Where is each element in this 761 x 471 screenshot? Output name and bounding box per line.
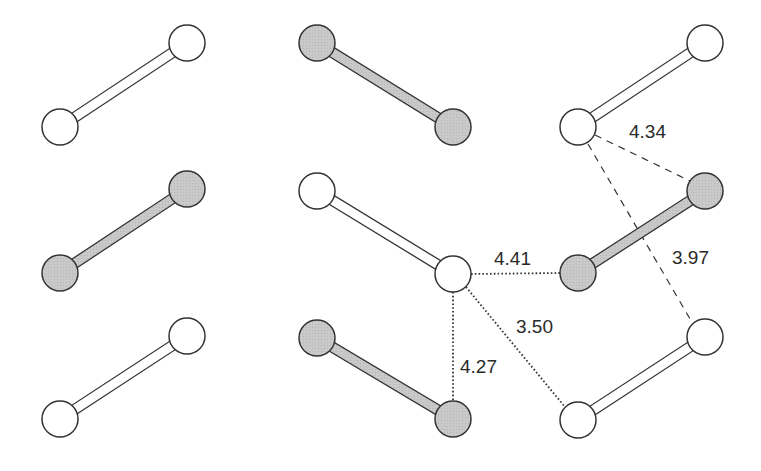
distance-label: 3.97 xyxy=(672,247,709,268)
bond xyxy=(314,39,455,132)
open-atom xyxy=(169,25,205,61)
distance-label: 3.50 xyxy=(516,316,553,337)
shaded-atom xyxy=(42,255,78,291)
packing-diagram: 4.414.273.504.343.97 xyxy=(0,0,761,471)
shaded-atom xyxy=(687,173,723,209)
bond xyxy=(575,333,707,424)
molecule-m9 xyxy=(560,319,723,438)
shaded-atom xyxy=(299,25,335,61)
shaded-atom xyxy=(299,320,335,356)
bond xyxy=(57,185,190,277)
distance-label: 4.34 xyxy=(629,121,666,142)
molecule-m1 xyxy=(42,25,205,145)
molecule-m3 xyxy=(42,318,205,437)
open-atom xyxy=(687,25,723,61)
labels-layer: 4.414.273.504.343.97 xyxy=(460,121,709,377)
molecule-m4 xyxy=(299,25,471,145)
open-atom xyxy=(299,173,335,209)
molecule-m8 xyxy=(560,173,723,291)
shaded-atom xyxy=(169,171,205,207)
open-atom xyxy=(42,109,78,145)
molecule-m2 xyxy=(42,171,205,291)
open-atom xyxy=(435,256,471,292)
bond xyxy=(314,187,455,279)
open-atom xyxy=(560,109,596,145)
contact-line-4-41 xyxy=(471,273,560,274)
molecule-m5 xyxy=(299,173,471,292)
bond xyxy=(314,334,455,424)
bond xyxy=(57,332,189,423)
shaded-atom xyxy=(435,401,471,437)
distance-label: 4.27 xyxy=(460,356,497,377)
shaded-atom xyxy=(435,109,471,145)
open-atom xyxy=(687,319,723,355)
distance-label: 4.41 xyxy=(494,248,531,269)
bond xyxy=(575,39,708,131)
bond xyxy=(57,39,190,131)
contact-line-3-50 xyxy=(466,287,565,407)
open-atom xyxy=(42,401,78,437)
molecule-m6 xyxy=(299,320,471,437)
open-atom xyxy=(560,402,596,438)
open-atom xyxy=(169,318,205,354)
shaded-atom xyxy=(560,255,596,291)
molecules-layer xyxy=(42,25,723,438)
